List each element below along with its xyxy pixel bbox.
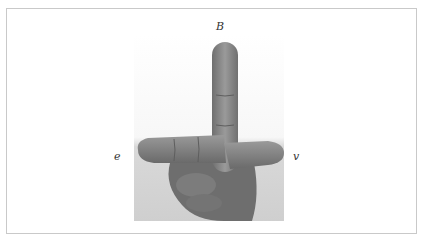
label-v-velocity: v [293, 150, 299, 163]
label-b-field: B [216, 20, 224, 33]
hand-photo [134, 35, 284, 221]
label-e-direction: e [114, 150, 121, 163]
hand-illustration-icon [134, 35, 284, 221]
